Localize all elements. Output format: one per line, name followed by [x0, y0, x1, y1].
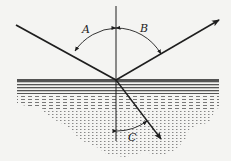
refraction-diagram: A B C [0, 0, 231, 161]
angle-a-label: A [81, 23, 90, 36]
diagram-canvas: A B C [0, 0, 231, 161]
incident-ray [16, 25, 116, 80]
angle-c-label: C [128, 131, 137, 144]
angle-b-arc [116, 28, 161, 54]
water-region [17, 80, 219, 157]
water-medium-band [17, 94, 219, 112]
reflected-ray [116, 20, 219, 80]
angle-b-label: B [139, 22, 148, 35]
